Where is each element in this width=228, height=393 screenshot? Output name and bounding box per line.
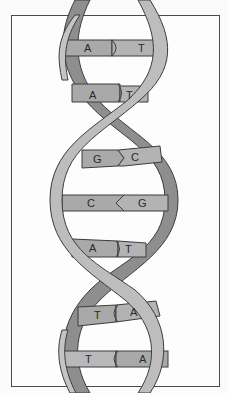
- base-label: T: [85, 353, 92, 365]
- base-label: A: [89, 89, 97, 101]
- base-label: G: [93, 153, 102, 165]
- base-label: G: [138, 197, 147, 209]
- base-label: A: [84, 42, 92, 54]
- base-label: T: [126, 89, 133, 101]
- dna-helix-illustration: A T A T G C C G A T T A T A: [0, 0, 228, 393]
- base-label: T: [138, 42, 145, 54]
- base-label: A: [89, 242, 97, 254]
- base-pair-4: [62, 195, 168, 211]
- base-pair-1: [62, 40, 166, 56]
- base-label: T: [125, 243, 132, 255]
- base-label: A: [139, 353, 147, 365]
- base-label: C: [131, 151, 139, 163]
- base-label: C: [87, 197, 95, 209]
- base-label: T: [94, 309, 101, 321]
- base-label: A: [130, 306, 138, 318]
